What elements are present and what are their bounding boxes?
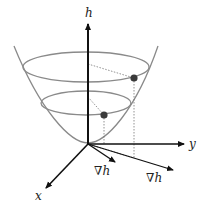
upper-surface-point	[130, 74, 137, 81]
lower-surface-point	[100, 111, 107, 118]
paraboloid-diagram: h y x ∇h ∇h	[0, 0, 206, 212]
lower-contour-ellipse	[41, 91, 131, 115]
upper-contour-ellipse	[23, 52, 149, 82]
h-axis-label: h	[85, 6, 93, 20]
gradient-label-outer: ∇h	[146, 171, 162, 185]
x-axis	[46, 144, 88, 188]
paraboloid-surface	[14, 46, 158, 143]
y-axis-label: y	[188, 137, 196, 151]
gradient-arrow-inner	[88, 144, 115, 162]
x-axis-label: x	[35, 189, 42, 203]
gradient-label-inner: ∇h	[94, 164, 110, 178]
